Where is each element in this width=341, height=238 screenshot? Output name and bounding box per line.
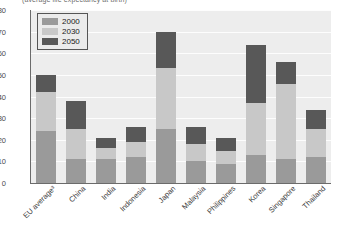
bar-segment-2000[interactable] <box>186 161 206 183</box>
y-axis-tick: 70 <box>0 27 6 36</box>
bar-segment-2000[interactable] <box>66 159 86 183</box>
x-axis-label: Japan <box>157 184 178 205</box>
bar-segment-2000[interactable] <box>246 155 266 183</box>
x-axis-label: Indonesia <box>118 184 147 213</box>
stacked-bar[interactable] <box>306 110 326 184</box>
stacked-bar[interactable] <box>216 138 236 183</box>
legend-item[interactable]: 2030 <box>42 27 80 36</box>
x-axis-label: India <box>99 184 117 202</box>
bar-segment-2050[interactable] <box>306 110 326 129</box>
legend-label: 2030 <box>62 27 80 36</box>
chart-root: (average life expectancy at birth) 80706… <box>0 0 341 238</box>
legend-swatch <box>42 38 58 45</box>
stacked-bar[interactable] <box>246 45 266 183</box>
bar-slot <box>151 10 181 183</box>
x-axis-labels: EU average³ChinaIndiaIndonesiaJapanMalay… <box>30 184 330 238</box>
bar-slot <box>121 10 151 183</box>
bar-segment-2050[interactable] <box>126 127 146 142</box>
bar-segment-2030[interactable] <box>66 129 86 159</box>
bar-segment-2050[interactable] <box>186 127 206 144</box>
legend-item[interactable]: 2000 <box>42 17 80 26</box>
x-axis-label: Thailand <box>301 184 328 211</box>
x-axis-label: China <box>67 184 87 204</box>
legend-item[interactable]: 2050 <box>42 37 80 46</box>
stacked-bar[interactable] <box>186 127 206 183</box>
bar-segment-2030[interactable] <box>306 129 326 157</box>
bar-segment-2000[interactable] <box>126 157 146 183</box>
bar-slot <box>271 10 301 183</box>
x-axis-label: Korea <box>247 184 268 205</box>
bar-segment-2030[interactable] <box>276 84 296 160</box>
bar-segment-2030[interactable] <box>96 148 116 159</box>
y-axis-tick: 50 <box>0 70 6 79</box>
bar-slot <box>241 10 271 183</box>
bar-segment-2030[interactable] <box>36 92 56 131</box>
y-axis-tick: 0 <box>0 179 6 188</box>
bar-segment-2000[interactable] <box>306 157 326 183</box>
bar-segment-2000[interactable] <box>36 131 56 183</box>
x-axis-label: Singapore <box>267 184 298 215</box>
bar-segment-2030[interactable] <box>216 151 236 164</box>
bar-segment-2030[interactable] <box>156 68 176 129</box>
stacked-bar[interactable] <box>66 101 86 183</box>
bar-segment-2000[interactable] <box>216 164 236 183</box>
bar-slot <box>301 10 331 183</box>
stacked-bar[interactable] <box>276 62 296 183</box>
legend-swatch <box>42 28 58 35</box>
stacked-bar[interactable] <box>126 127 146 183</box>
bar-segment-2050[interactable] <box>36 75 56 92</box>
stacked-bar[interactable] <box>96 138 116 183</box>
stacked-bar[interactable] <box>156 32 176 183</box>
bar-segment-2050[interactable] <box>96 138 116 149</box>
y-axis-tick: 60 <box>0 49 6 58</box>
chart-legend: 200020302050 <box>37 13 88 50</box>
bar-segment-2030[interactable] <box>186 144 206 161</box>
legend-label: 2050 <box>62 37 80 46</box>
bar-segment-2050[interactable] <box>246 45 266 103</box>
y-axis-tick: 40 <box>0 92 6 101</box>
x-axis-label: Malaysia <box>180 184 207 211</box>
y-axis-tick: 80 <box>0 6 6 15</box>
bar-segment-2050[interactable] <box>66 101 86 129</box>
bar-segment-2050[interactable] <box>216 138 236 151</box>
y-axis-tick: 20 <box>0 135 6 144</box>
bar-segment-2000[interactable] <box>96 159 116 183</box>
stacked-bar[interactable] <box>36 75 56 183</box>
y-axis-tick: 10 <box>0 157 6 166</box>
bar-slot <box>91 10 121 183</box>
bar-segment-2030[interactable] <box>126 142 146 157</box>
bar-segment-2050[interactable] <box>276 62 296 84</box>
bar-segment-2030[interactable] <box>246 103 266 155</box>
y-axis-tick: 30 <box>0 114 6 123</box>
bar-slot <box>181 10 211 183</box>
legend-label: 2000 <box>62 17 80 26</box>
legend-swatch <box>42 18 58 25</box>
bar-segment-2000[interactable] <box>156 129 176 183</box>
bar-segment-2050[interactable] <box>156 32 176 69</box>
x-axis-label: Philippines <box>205 184 237 216</box>
bar-slot <box>211 10 241 183</box>
bar-segment-2000[interactable] <box>276 159 296 183</box>
